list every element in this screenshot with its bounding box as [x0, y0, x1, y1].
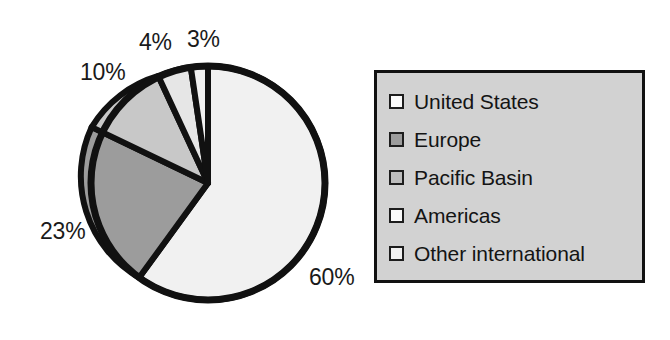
- legend-item-pacific-basin[interactable]: Pacific Basin: [389, 158, 642, 196]
- pie-chart-graphic: 60% 23% 10% 4% 3%: [0, 0, 370, 340]
- legend-item-americas[interactable]: Americas: [389, 196, 642, 234]
- legend-swatch-icon-americas: [389, 208, 404, 223]
- legend-item-united-states[interactable]: United States: [389, 82, 642, 120]
- pie-chart-figure: 60% 23% 10% 4% 3% United States Europe P…: [0, 0, 670, 340]
- legend-item-europe[interactable]: Europe: [389, 120, 642, 158]
- legend-swatch-icon-pacific-basin: [389, 170, 404, 185]
- pie-value-label-pacific-basin: 10%: [80, 59, 125, 86]
- pie-value-label-other-international: 3%: [187, 26, 220, 53]
- legend-item-other-international[interactable]: Other international: [389, 234, 642, 272]
- legend-label-other-international: Other international: [414, 243, 585, 264]
- chart-legend: United States Europe Pacific Basin Ameri…: [374, 70, 645, 283]
- legend-label-pacific-basin: Pacific Basin: [414, 167, 533, 188]
- pie-value-label-europe: 23%: [40, 218, 85, 245]
- pie-value-label-americas: 4%: [139, 29, 172, 56]
- legend-swatch-icon-other-international: [389, 246, 404, 261]
- pie-value-label-united-states: 60%: [309, 264, 354, 291]
- legend-label-americas: Americas: [414, 205, 501, 226]
- legend-swatch-icon-united-states: [389, 94, 404, 109]
- legend-label-europe: Europe: [414, 129, 481, 150]
- legend-swatch-icon-europe: [389, 132, 404, 147]
- legend-label-united-states: United States: [414, 91, 539, 112]
